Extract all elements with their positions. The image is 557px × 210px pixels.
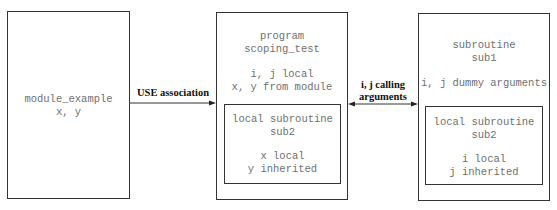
connector-arrows (0, 0, 557, 210)
calling-arguments-label-line2: arguments (348, 91, 418, 103)
calling-arguments-label-line1: i, j calling (348, 79, 418, 91)
use-association-label: USE association (130, 87, 216, 99)
use-association-arrow (130, 101, 216, 106)
